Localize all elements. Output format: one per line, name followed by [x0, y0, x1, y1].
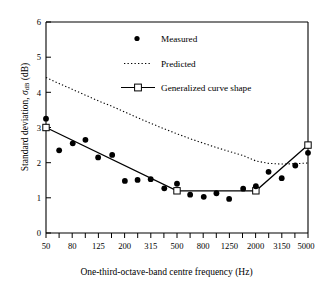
x-tick-label: 3150 [273, 241, 290, 251]
x-axis-ticks [46, 233, 308, 238]
x-axis-label-wrap: One-third-octave-band centre frequency (… [0, 261, 333, 279]
measured-point-marker [148, 176, 154, 182]
measured-point-marker [266, 169, 272, 175]
x-tick-label: 2000 [247, 241, 264, 251]
measured-point-marker [135, 177, 141, 183]
x-tick-label: 80 [68, 241, 77, 251]
y-tick-label: 2 [37, 158, 41, 168]
y-axis-label-units: (dB) [20, 63, 30, 80]
measured-point-marker [122, 178, 128, 184]
measured-point-marker [253, 183, 259, 189]
measured-point-marker [187, 192, 193, 198]
x-tick-label: 125 [92, 241, 105, 251]
y-tick-label: 0 [37, 228, 41, 238]
y-axis-label-main: Standard deviation, [20, 97, 30, 171]
measured-point-marker [214, 190, 220, 196]
chart-plot-area: 0 1 2 3 4 5 6 [0, 0, 333, 283]
generalized-square-marker [305, 142, 311, 148]
measured-point-marker [279, 175, 285, 181]
x-tick-label: 5000 [297, 241, 314, 251]
legend-label-predicted: Predicted [161, 59, 196, 69]
measured-point-marker [174, 181, 180, 187]
axis-frame [46, 22, 308, 233]
measured-point-marker [95, 154, 101, 160]
measured-point-marker [161, 185, 167, 191]
y-tick-label: 3 [37, 123, 41, 133]
y-tick-label: 4 [37, 88, 42, 98]
x-tick-label: 200 [118, 241, 131, 251]
y-tick-label: 6 [37, 17, 42, 27]
y-tick-label: 1 [37, 193, 41, 203]
legend-label-generalized: Generalized curve shape [161, 83, 251, 93]
x-tick-label: 800 [197, 241, 210, 251]
measured-point-marker [240, 186, 246, 192]
measured-point-marker [292, 163, 298, 169]
y-axis-tick-labels: 0 1 2 3 4 5 6 [37, 17, 42, 238]
y-axis-label-symbol: σ [20, 90, 30, 95]
generalized-square-marker [43, 124, 49, 130]
y-tick-label: 5 [37, 52, 41, 62]
legend-marker-generalized-square-icon [135, 84, 142, 91]
measured-point-marker [70, 140, 76, 146]
x-axis-tick-labels: 50 80 125 200 315 500 800 1250 2000 3150… [42, 241, 315, 251]
x-tick-label: 500 [171, 241, 184, 251]
y-axis-label-subscript: dB [23, 83, 30, 91]
measured-point-marker [226, 196, 232, 202]
legend-marker-measured-icon [134, 36, 139, 41]
x-tick-label: 50 [42, 241, 51, 251]
measured-point-marker [83, 137, 89, 143]
measured-point-marker [109, 152, 115, 158]
x-axis-label: One-third-octave-band centre frequency (… [80, 267, 252, 277]
legend-label-measured: Measured [161, 34, 198, 44]
measured-point-marker [201, 194, 207, 200]
y-axis-label: Standard deviation, σdB (dB) [14, 32, 32, 202]
measured-point-marker [43, 116, 49, 122]
measured-point-marker [56, 147, 62, 153]
x-tick-label: 1250 [221, 241, 238, 251]
chart-legend: Measured Predicted Generalized curve sha… [121, 34, 251, 93]
x-tick-label: 315 [144, 241, 157, 251]
generalized-square-marker [174, 188, 180, 194]
measured-point-marker [305, 150, 311, 156]
chart-figure: 0 1 2 3 4 5 6 [0, 0, 333, 283]
